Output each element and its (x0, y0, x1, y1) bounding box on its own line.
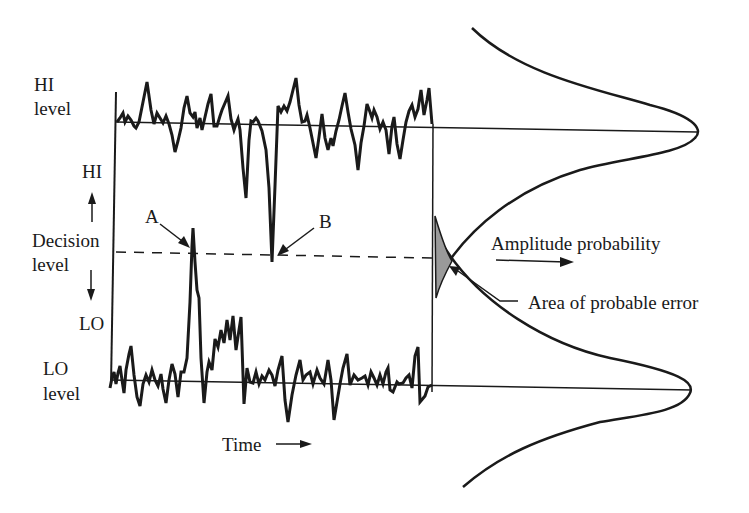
lo-probability-curve (443, 245, 691, 487)
amplitude-arrow-head (560, 257, 574, 267)
lo-label: LO (79, 313, 104, 335)
hi-up-arrow-head (88, 192, 96, 204)
signal-decision-diagram (0, 0, 749, 513)
arrow-b-line (282, 228, 314, 252)
decision-level-line (116, 252, 432, 258)
hi-label: HI (82, 161, 102, 183)
arrow-b-head (277, 244, 289, 256)
decision-level-label-line1: Decision (32, 230, 100, 252)
point-a-label: A (145, 206, 159, 228)
amplitude-probability-label: Amplitude probability (491, 233, 660, 255)
lo-level-label-line2: level (43, 383, 80, 405)
amplitude-arrow-line (496, 260, 566, 262)
error-area (435, 216, 452, 298)
hi-signal-waveform (117, 78, 432, 262)
time-arrow-head (300, 440, 312, 448)
area-of-probable-error-label: Area of probable error (528, 292, 698, 314)
right-boundary (432, 124, 433, 392)
lo-level-label-line1: LO (43, 358, 68, 380)
lo-down-arrow-head (87, 289, 95, 301)
arrow-a-head (178, 236, 190, 248)
decision-level-label-line2: level (32, 254, 69, 276)
point-b-label: B (319, 211, 332, 233)
hi-level-label-line1: HI (34, 74, 54, 96)
left-axis (111, 92, 116, 385)
time-label: Time (222, 434, 261, 456)
hi-level-label-line2: level (34, 98, 71, 120)
